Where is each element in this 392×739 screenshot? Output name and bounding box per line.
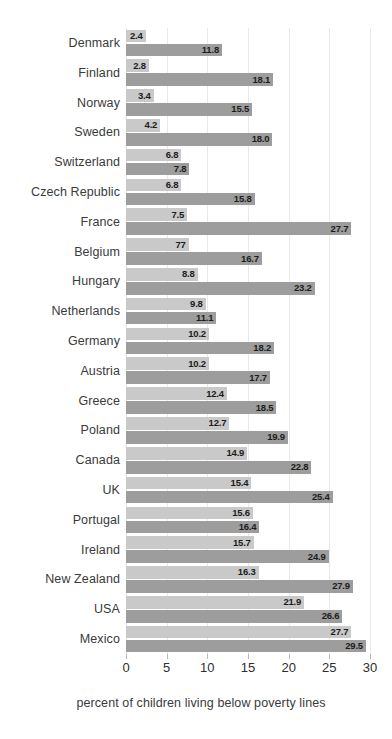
category-label: Hungary — [0, 275, 120, 288]
bar-row: 27.9 — [126, 580, 370, 593]
bar-row: 11.1 — [126, 312, 370, 325]
bar-group: 21.926.6 — [126, 594, 370, 625]
bar-row: 7.5 — [126, 208, 370, 221]
category-label: Austria — [0, 365, 120, 378]
bar-group: 14.922.8 — [126, 445, 370, 476]
bar-group: 9.811.1 — [126, 296, 370, 327]
category-label: UK — [0, 484, 120, 497]
bar-row: 27.7 — [126, 626, 370, 639]
bar-value-label: 26.6 — [322, 612, 343, 622]
bar-row: 21.9 — [126, 596, 370, 609]
category-label: New Zealand — [0, 573, 120, 586]
bar-group: 12.418.5 — [126, 386, 370, 417]
bar-row: 12.4 — [126, 387, 370, 400]
bar-value-label: 10.2 — [188, 359, 209, 369]
category-label: Sweden — [0, 126, 120, 139]
x-tick-mark — [370, 654, 371, 659]
category-label: USA — [0, 603, 120, 616]
bar-row: 27.7 — [126, 222, 370, 235]
category-axis-labels: DenmarkFinlandNorwaySwedenSwitzerlandCze… — [0, 28, 120, 654]
bar-row: 18.5 — [126, 401, 370, 414]
x-tick-label: 10 — [200, 661, 214, 674]
bar-value-label: 15.6 — [232, 508, 253, 518]
bar-group: 7716.7 — [126, 237, 370, 268]
bar-value-label: 24.9 — [308, 552, 329, 562]
bar-series-2 — [126, 342, 274, 355]
bar-group: 2.818.1 — [126, 58, 370, 89]
plot-area: 2.411.82.818.13.415.54.218.06.87.86.815.… — [126, 28, 370, 654]
bar-row: 77 — [126, 238, 370, 251]
category-label: Portugal — [0, 514, 120, 527]
category-label: Poland — [0, 424, 120, 437]
bar-series-2 — [126, 73, 273, 86]
bar-row: 18.1 — [126, 73, 370, 86]
bar-row: 14.9 — [126, 447, 370, 460]
bar-row: 9.8 — [126, 298, 370, 311]
bar-row: 12.7 — [126, 417, 370, 430]
bar-group: 15.616.4 — [126, 505, 370, 536]
bar-series-2 — [126, 431, 288, 444]
x-tick-label: 30 — [363, 661, 377, 674]
x-tick-label: 15 — [241, 661, 255, 674]
x-tick-mark — [207, 654, 208, 659]
bar-group: 6.87.8 — [126, 147, 370, 178]
bar-value-label: 15.8 — [234, 194, 255, 204]
bar-value-label: 16.3 — [238, 568, 259, 578]
category-label: Mexico — [0, 633, 120, 646]
bar-value-label: 27.7 — [331, 224, 352, 234]
bar-group: 3.415.5 — [126, 88, 370, 119]
x-tick-label: 20 — [281, 661, 295, 674]
x-tick-mark — [126, 654, 127, 659]
bar-group: 27.729.5 — [126, 624, 370, 655]
x-axis-title: percent of children living below poverty… — [0, 697, 392, 710]
bar-row: 6.8 — [126, 179, 370, 192]
bar-group: 12.719.9 — [126, 416, 370, 447]
bar-series-2 — [126, 550, 329, 563]
bar-value-label: 29.5 — [345, 641, 366, 651]
bar-group: 4.218.0 — [126, 117, 370, 148]
bar-value-label: 15.5 — [231, 105, 252, 115]
bar-row: 11.8 — [126, 44, 370, 57]
bar-value-label: 6.8 — [166, 150, 182, 160]
bar-value-label: 27.7 — [331, 627, 352, 637]
bar-row: 2.8 — [126, 59, 370, 72]
bar-group: 16.327.9 — [126, 565, 370, 596]
bar-value-label: 2.4 — [130, 31, 146, 41]
bar-value-label: 19.9 — [267, 433, 288, 443]
bar-series-2 — [126, 610, 342, 623]
bar-value-label: 8.8 — [182, 270, 198, 280]
bar-row: 29.5 — [126, 640, 370, 653]
category-label: Germany — [0, 335, 120, 348]
bar-value-label: 7.5 — [171, 210, 187, 220]
bar-value-label: 11.8 — [202, 45, 222, 55]
bar-series-2 — [126, 133, 272, 146]
bar-value-label: 77 — [175, 240, 188, 250]
bar-value-label: 7.8 — [174, 164, 190, 174]
category-label: Norway — [0, 97, 120, 110]
bar-row: 23.2 — [126, 282, 370, 295]
bar-value-label: 16.4 — [239, 522, 260, 532]
bar-row: 22.8 — [126, 461, 370, 474]
bar-value-label: 9.8 — [190, 299, 206, 309]
bar-group: 2.411.8 — [126, 28, 370, 59]
x-tick-mark — [329, 654, 330, 659]
x-tick-mark — [248, 654, 249, 659]
bar-value-label: 18.2 — [253, 343, 274, 353]
bar-row: 16.4 — [126, 521, 370, 534]
category-label: Belgium — [0, 246, 120, 259]
bar-row: 10.2 — [126, 357, 370, 370]
bar-row: 25.4 — [126, 491, 370, 504]
bar-row: 15.6 — [126, 507, 370, 520]
bar-row: 18.2 — [126, 342, 370, 355]
bar-row: 10.2 — [126, 328, 370, 341]
bar-row: 15.7 — [126, 536, 370, 549]
bar-row: 15.8 — [126, 193, 370, 206]
bar-series-2 — [126, 640, 366, 653]
bar-value-label: 18.0 — [252, 135, 273, 145]
bar-value-label: 16.7 — [241, 254, 262, 264]
bar-value-label: 27.9 — [332, 582, 353, 592]
bar-row: 15.5 — [126, 103, 370, 116]
bar-row: 16.3 — [126, 566, 370, 579]
category-label: Denmark — [0, 37, 120, 50]
poverty-bar-chart: DenmarkFinlandNorwaySwedenSwitzerlandCze… — [0, 0, 392, 739]
